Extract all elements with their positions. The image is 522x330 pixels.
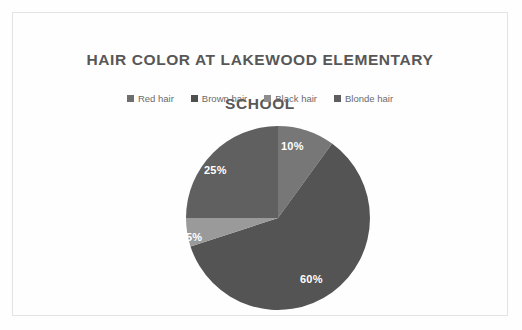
legend-item-brown-hair[interactable]: Brown hair	[191, 93, 247, 104]
chart-container: HAIR COLOR AT LAKEWOOD ELEMENTARY SCHOOL…	[12, 12, 508, 316]
chart-screenshot: HAIR COLOR AT LAKEWOOD ELEMENTARY SCHOOL…	[0, 0, 522, 330]
pie-slices	[186, 126, 370, 310]
pie-chart-svg	[186, 126, 370, 310]
pie-slice-blonde-hair[interactable]	[186, 126, 278, 218]
legend-label: Blonde hair	[345, 93, 393, 104]
pie-label-brown-hair: 60%	[300, 273, 323, 285]
legend-item-black-hair[interactable]: Black hair	[264, 93, 317, 104]
legend-label: Black hair	[275, 93, 317, 104]
square-marker-icon	[127, 95, 134, 102]
pie-chart: 10% 60% 5% 25%	[186, 126, 370, 310]
chart-legend: Red hair Brown hair Black hair Blonde ha…	[13, 93, 507, 104]
square-marker-icon	[191, 95, 198, 102]
legend-item-blonde-hair[interactable]: Blonde hair	[334, 93, 393, 104]
chart-title-line-1: HAIR COLOR AT LAKEWOOD ELEMENTARY	[86, 51, 433, 68]
square-marker-icon	[264, 95, 271, 102]
square-marker-icon	[334, 95, 341, 102]
legend-item-red-hair[interactable]: Red hair	[127, 93, 174, 104]
pie-label-red-hair: 10%	[281, 140, 304, 152]
pie-label-blonde-hair: 25%	[204, 164, 227, 176]
legend-label: Brown hair	[202, 93, 247, 104]
legend-label: Red hair	[138, 93, 174, 104]
pie-label-black-hair: 5%	[186, 231, 202, 243]
